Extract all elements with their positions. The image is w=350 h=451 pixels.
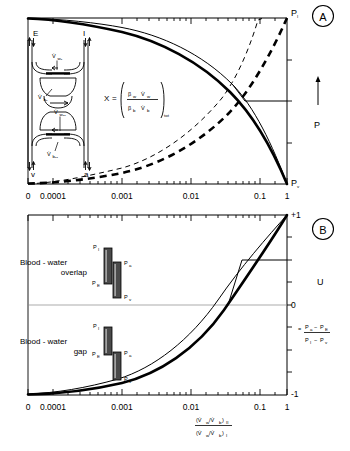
svg-text:P: P — [92, 280, 96, 286]
svg-text:I: I — [98, 247, 99, 252]
gap-label-pe: P E — [92, 351, 100, 359]
inset-label-inspired: I — [83, 29, 85, 38]
gap-bar-water — [104, 327, 112, 355]
panel-a-badge: A — [313, 6, 334, 27]
svg-text:I: I — [226, 433, 227, 438]
svg-text:0.0001: 0.0001 — [40, 191, 66, 201]
svg-text:P: P — [124, 294, 128, 300]
figure-svg: P I P v P A — [0, 0, 350, 451]
svg-text:v: v — [297, 184, 300, 189]
panel-a-pv-label: P v — [291, 178, 300, 189]
panel-a-axis-label: P — [314, 120, 320, 130]
formula-paren-left — [121, 82, 124, 118]
panel-a-right-ticks — [287, 60, 292, 143]
panel-b-ybottom-label: -1 — [291, 389, 299, 399]
panel-b: +1 0 -1 U = P a − P E P I − P v — [20, 210, 334, 438]
annotation-blood-water-overlap: Blood - water overlap P I P E P a — [20, 244, 132, 302]
svg-text:0.1: 0.1 — [254, 402, 266, 412]
inset-label-vw2: V̇ w₁₁ — [54, 109, 66, 131]
curve-pa-thin-dashed — [28, 19, 262, 184]
svg-text:A: A — [319, 11, 327, 23]
svg-text:I: I — [98, 326, 99, 331]
svg-text:b: b — [147, 108, 150, 113]
svg-text:P: P — [320, 337, 324, 343]
svg-text:E: E — [325, 327, 328, 332]
svg-text:E: E — [97, 354, 100, 359]
svg-text:0.001: 0.001 — [111, 402, 133, 412]
panel-b-step-line — [228, 260, 287, 305]
inset-blood-arrow-mid — [50, 101, 68, 105]
formula-lhs: X — [104, 94, 110, 103]
svg-text:w: w — [147, 94, 151, 99]
svg-text:v: v — [129, 297, 132, 302]
inset-label-arterial: a — [84, 170, 89, 179]
svg-text:II: II — [226, 420, 228, 425]
svg-text:/V̇: /V̇ — [209, 430, 215, 436]
gap-label-pi: P I — [93, 323, 99, 331]
svg-text:P: P — [93, 244, 97, 250]
panel-a-axis-arrow-icon — [316, 76, 321, 105]
svg-text:P: P — [124, 260, 128, 266]
gap-line2: gap — [74, 347, 88, 356]
svg-text:): ) — [222, 417, 224, 423]
panel-a-step-line — [233, 85, 287, 101]
gap-line1: Blood - water — [20, 337, 67, 346]
svg-text:b₁₁: b₁₁ — [53, 154, 59, 159]
svg-text:w: w — [133, 94, 137, 99]
svg-text:V̇: V̇ — [141, 105, 145, 111]
panel-b-xtick-labels: 0 0.0001 0.001 0.01 0.1 1 — [26, 402, 290, 412]
svg-text:=: = — [298, 326, 301, 332]
xlabel-numerator: (V̇ w /V̇ b ) II — [196, 417, 228, 425]
overlap-label-pi: P I — [93, 244, 99, 252]
svg-text:0.01: 0.01 — [183, 402, 200, 412]
inset-label-vb2: V̇ b₁₁ — [47, 142, 58, 159]
svg-text:1: 1 — [285, 191, 290, 201]
svg-text:a: a — [129, 353, 132, 358]
panel-b-axis-symbol: U — [317, 277, 324, 287]
panel-b-xlabel: (V̇ w /V̇ b ) II (V̇ w /V̇ b ) I — [195, 417, 232, 438]
formula-outer-subscript: tot — [164, 113, 170, 118]
panel-b-ytop-label: +1 — [291, 210, 301, 220]
formula-denominator: β b V̇ b — [128, 105, 150, 113]
svg-text:V̇: V̇ — [47, 151, 51, 157]
formula-numerator: β w V̇ w — [128, 91, 151, 99]
panel-b-top-ticks — [28, 215, 275, 221]
figure-container: P I P v P A — [0, 0, 350, 451]
panel-a-top-ticks — [53, 18, 275, 24]
inset-label-venous: v — [31, 170, 35, 179]
svg-text:V̇: V̇ — [52, 53, 56, 59]
svg-text:w₁₁: w₁₁ — [60, 112, 67, 117]
panel-a: P I P v P A — [26, 6, 334, 202]
gap-label-pa: P a — [124, 350, 132, 358]
u-def-numerator: P a − P E — [305, 324, 328, 332]
formula-eq: = — [112, 94, 117, 103]
svg-text:0.1: 0.1 — [254, 191, 266, 201]
svg-text:P: P — [93, 323, 97, 329]
svg-text:v: v — [325, 340, 328, 345]
overlap-label-pe: P E — [92, 280, 100, 288]
svg-text:w₁: w₁ — [58, 56, 63, 61]
panel-b-axis-definition: = P a − P E P I − P v — [298, 324, 330, 345]
svg-text:): ) — [222, 430, 224, 436]
xlabel-denominator: (V̇ w /V̇ b ) I — [196, 430, 227, 438]
svg-text:/V̇: /V̇ — [209, 417, 215, 423]
svg-text:I: I — [310, 340, 311, 345]
svg-text:P: P — [305, 324, 309, 330]
svg-text:β: β — [128, 105, 131, 111]
svg-text:−: − — [314, 337, 317, 343]
annotation-blood-water-gap: Blood - water gap P I P E P a — [20, 323, 132, 384]
svg-text:0.0001: 0.0001 — [40, 402, 66, 412]
svg-text:V̇: V̇ — [54, 109, 58, 115]
svg-text:a: a — [310, 327, 313, 332]
overlap-line1: Blood - water — [20, 258, 67, 267]
svg-text:(V̇: (V̇ — [196, 430, 202, 436]
u-def-denominator: P I − P v — [305, 337, 328, 345]
overlap-label-pv: P v — [124, 294, 132, 302]
svg-text:(V̇: (V̇ — [196, 417, 202, 423]
inset-label-expired: E — [33, 29, 38, 38]
svg-text:P: P — [124, 350, 128, 356]
svg-text:0.01: 0.01 — [183, 191, 200, 201]
svg-text:P: P — [92, 351, 96, 357]
svg-text:β: β — [128, 91, 131, 97]
overlap-bar-water — [104, 248, 112, 284]
